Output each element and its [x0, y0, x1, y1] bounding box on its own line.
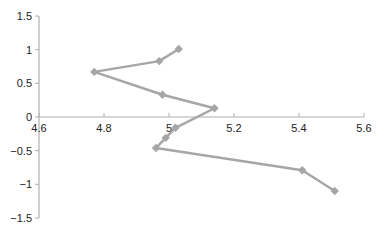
x-tick-label: 4.8	[96, 122, 111, 134]
y-tick-label: 1.5	[17, 10, 32, 22]
data-series	[90, 45, 339, 195]
line-chart: 1.510.50−0.5−1−1.5 4.64.855.25.45.6	[0, 0, 386, 232]
x-tick-label: 5.2	[226, 122, 241, 134]
x-tick-label: 5.6	[356, 122, 371, 134]
y-tick-label: −1.5	[10, 212, 32, 224]
y-tick-label: 1	[26, 44, 32, 56]
y-axis: 1.510.50−0.5−1−1.5	[10, 10, 39, 224]
diamond-marker-icon	[210, 104, 218, 112]
diamond-marker-icon	[158, 91, 166, 99]
x-tick-label: 5.4	[291, 122, 306, 134]
x-tick-label: 4.6	[31, 122, 46, 134]
y-tick-label: −1	[19, 178, 32, 190]
y-tick-label: 0.5	[17, 77, 32, 89]
y-tick-label: −0.5	[10, 145, 32, 157]
diamond-marker-icon	[90, 68, 98, 76]
